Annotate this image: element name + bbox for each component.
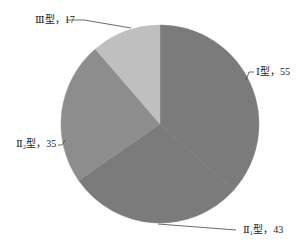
- label-type1: Ⅰ型，55: [256, 65, 290, 77]
- pie-slices: [61, 25, 259, 223]
- label-type2-2: Ⅱ₂型，35: [16, 137, 56, 149]
- label-type2-1: Ⅱ₁型，43: [243, 223, 283, 235]
- label-type3: Ⅲ型，17: [35, 13, 75, 25]
- leader-line-type3: [66, 20, 131, 28]
- pie-chart: Ⅲ型，17 Ⅰ型，55 Ⅱ₂型，35 Ⅱ₁型，43: [0, 0, 308, 244]
- leader-line-type2-1: [158, 224, 236, 230]
